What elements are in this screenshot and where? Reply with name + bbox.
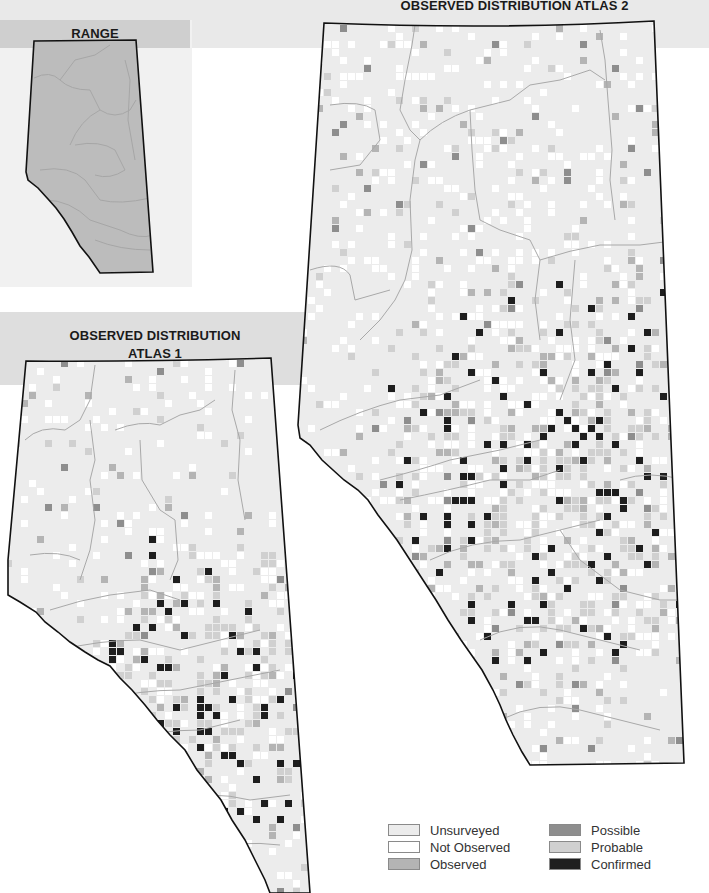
legend-item-possible: Possible [549, 822, 640, 838]
legend-swatch [549, 841, 581, 853]
legend-item-confirmed: Confirmed [549, 856, 651, 872]
legend-item-not-observed: Not Observed [388, 839, 510, 855]
legend-label: Observed [430, 857, 486, 872]
maps-canvas [0, 0, 709, 893]
legend-label: Possible [591, 823, 640, 838]
legend-item-unsurveyed: Unsurveyed [388, 822, 499, 838]
legend-swatch [549, 824, 581, 836]
atlas2-map [290, 15, 691, 776]
legend-label: Unsurveyed [430, 823, 499, 838]
legend-item-probable: Probable [549, 839, 643, 855]
legend-swatch [388, 824, 420, 836]
legend-item-observed: Observed [388, 856, 486, 872]
legend-label: Probable [591, 840, 643, 855]
legend-swatch [388, 858, 420, 870]
legend-swatch [549, 858, 581, 870]
legend: Unsurveyed Not Observed Observed Possibl… [388, 822, 688, 872]
legend-swatch [388, 841, 420, 853]
range-map [0, 30, 200, 290]
legend-label: Not Observed [430, 840, 510, 855]
legend-label: Confirmed [591, 857, 651, 872]
